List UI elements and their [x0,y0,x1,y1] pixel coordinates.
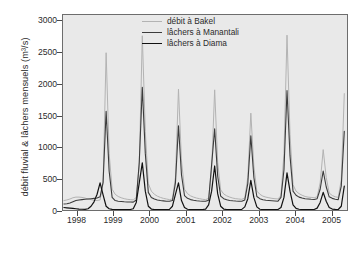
y-tick-mark [57,179,62,180]
x-tick-label: 1999 [93,215,133,225]
y-tick-mark [57,147,62,148]
x-tick-mark [113,211,114,216]
x-tick-mark [295,211,296,216]
y-tick-mark [57,116,62,117]
x-tick-label: 2005 [312,215,352,225]
x-tick-label: 2004 [275,215,315,225]
x-tick-mark [77,211,78,216]
legend-label-lachers-manantali: lâchers à Manantali [167,27,239,37]
series-line-2 [64,163,344,210]
series-line-1 [64,87,344,204]
legend-swatch-debit-bakel [142,21,162,22]
x-tick-label: 2003 [239,215,279,225]
x-tick-label: 2000 [129,215,169,225]
legend-swatch-lachers-manantali [142,32,162,33]
x-tick-label: 1998 [57,215,97,225]
legend-label-lachers-diama: lâchers à Diama [167,38,227,48]
y-axis-title: débit fluvial & lâchers mensuels (m³/s) [20,14,30,220]
y-tick-mark [57,211,62,212]
y-tick-mark [57,52,62,53]
y-tick-label: 3000 [31,15,57,25]
chart-legend: débit à Bakel lâchers à Manantali lâcher… [142,16,239,49]
x-tick-mark [222,211,223,216]
y-tick-label: 0 [31,206,57,216]
legend-item-debit-bakel: débit à Bakel [142,16,239,26]
y-tick-label: 2000 [31,79,57,89]
x-tick-mark [259,211,260,216]
y-tick-label: 2500 [31,47,57,57]
legend-item-lachers-diama: lâchers à Diama [142,38,239,48]
y-tick-label: 500 [31,174,57,184]
x-tick-label: 2002 [202,215,242,225]
legend-item-lachers-manantali: lâchers à Manantali [142,27,239,37]
x-tick-mark [186,211,187,216]
x-tick-mark [332,211,333,216]
y-tick-label: 1500 [31,111,57,121]
x-tick-label: 2001 [166,215,206,225]
legend-label-debit-bakel: débit à Bakel [167,16,215,26]
y-tick-mark [57,84,62,85]
legend-swatch-lachers-diama [142,43,162,44]
y-tick-label: 1000 [31,142,57,152]
y-tick-mark [57,20,62,21]
chart-figure: débit fluvial & lâchers mensuels (m³/s) … [0,0,361,254]
x-tick-mark [149,211,150,216]
